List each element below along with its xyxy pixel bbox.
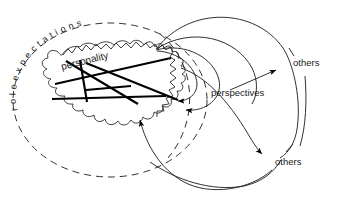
label-perspectives: perspectives	[211, 87, 265, 98]
others-lower-tick	[286, 144, 293, 152]
label-others-upper: others	[293, 57, 320, 68]
bottom-sweep-curve	[150, 160, 281, 188]
label-others-lower: others	[275, 156, 302, 167]
diagram-canvas: r o l e e x p e c t a t i o n s personal…	[0, 0, 340, 204]
others-upper-tick	[289, 48, 294, 56]
others-upper-connector	[300, 76, 306, 146]
arrow-from-others-lower-to-personality	[140, 120, 272, 190]
